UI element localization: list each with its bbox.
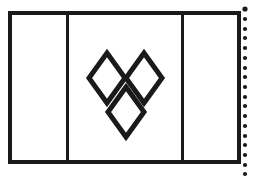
perforation-dot (243, 143, 247, 147)
perforation-dot (243, 153, 247, 157)
flag-line-drawing (0, 0, 255, 177)
perforation-dot (243, 36, 247, 40)
perforation-dot (243, 114, 247, 118)
perforation-dot (243, 85, 247, 89)
perforation-dot (243, 27, 247, 31)
perforation-dot (243, 56, 247, 60)
perforation-dot (243, 172, 247, 176)
canvas: Outline drawing of a vertical tricolour … (0, 0, 255, 177)
perforation-dot (243, 95, 247, 99)
perforation-dot (243, 104, 247, 108)
perforation-dot (243, 17, 247, 21)
perforation-dot (243, 46, 247, 50)
perforation-dot (243, 124, 247, 128)
perforation-dot (243, 66, 247, 70)
hoist-panel (12, 15, 67, 160)
perforation-dot (243, 134, 247, 138)
perforation-dot (243, 163, 247, 167)
perforation-dot (242, 6, 247, 11)
perforation-dot (243, 75, 247, 79)
fly-panel (182, 15, 237, 160)
